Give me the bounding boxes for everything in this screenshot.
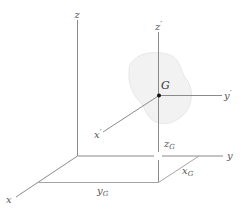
xG-label: xG — [182, 165, 194, 178]
xG-sub: G — [188, 170, 194, 178]
z-prime-axis-label: z′ — [154, 19, 162, 32]
y-prime-mark: ′ — [230, 88, 232, 97]
x-axis-line — [16, 156, 78, 197]
z-axis-label: z — [74, 9, 81, 20]
z-prime-mark: ′ — [160, 19, 162, 28]
x-axis-label: x — [6, 194, 12, 205]
zG-sub: G — [169, 143, 175, 151]
y-axis-label: y — [226, 150, 233, 161]
zG-label: zG — [163, 138, 175, 151]
center-of-mass-diagram: z y x z′ y′ x′ G zG xG yG — [0, 0, 248, 214]
y-prime-axis-label: y′ — [223, 88, 232, 101]
x-prime-mark: ′ — [100, 127, 102, 136]
center-of-mass-point — [157, 94, 161, 98]
center-of-mass-label: G — [161, 79, 170, 92]
yG-label: yG — [96, 185, 109, 198]
x-prime-axis-label: x′ — [94, 127, 102, 140]
projection-lines — [39, 156, 200, 183]
yG-sub: G — [103, 190, 109, 198]
